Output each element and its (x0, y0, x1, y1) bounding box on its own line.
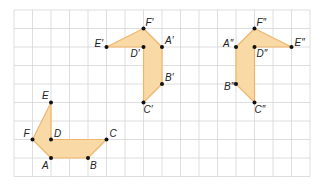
vertex-label: D″ (257, 48, 268, 59)
vertex-point (49, 156, 53, 160)
vertex-label: A′ (164, 35, 175, 46)
vertex-point (160, 45, 164, 49)
vertex-label: D′ (131, 48, 141, 59)
vertex-label: E′ (95, 38, 105, 49)
vertex-point (234, 45, 238, 49)
vertex-label: F (24, 128, 31, 139)
vertex-label: C (110, 128, 118, 139)
vertex-point (31, 138, 35, 142)
vertex-point (142, 45, 146, 49)
transformation-grid-diagram: ABCDEFA′B′C′D′E′F′A″B″C″D″E″F″ (0, 0, 317, 194)
vertex-label: F″ (257, 17, 267, 28)
vertex-label: A″ (222, 38, 234, 49)
vertex-label: F′ (146, 17, 155, 28)
vertex-label: E″ (295, 37, 306, 48)
vertex-point (49, 101, 53, 105)
vertex-label: B (90, 160, 97, 171)
vertex-label: D (54, 128, 61, 139)
vertex-label: A (41, 160, 49, 171)
vertex-point (105, 138, 109, 142)
vertex-label: E (42, 90, 49, 101)
vertex-label: B′ (165, 72, 175, 83)
vertex-label: C″ (255, 104, 266, 115)
vertex-point (234, 82, 238, 86)
vertex-label: B″ (224, 81, 235, 92)
vertex-point (105, 45, 109, 49)
vertex-point (290, 45, 294, 49)
vertex-label: C′ (144, 104, 154, 115)
vertex-point (160, 82, 164, 86)
vertex-point (49, 138, 53, 142)
